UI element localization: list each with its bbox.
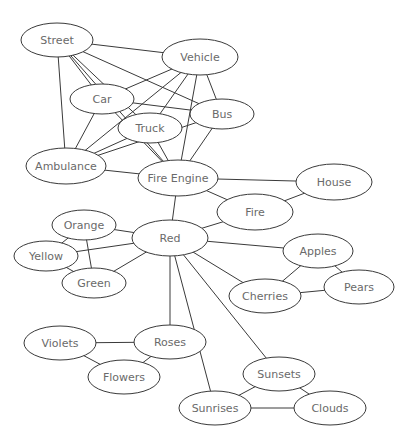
- node-label: Fire: [245, 206, 265, 219]
- node-label: Green: [77, 277, 110, 290]
- node-label: Clouds: [311, 402, 348, 415]
- node-label: Flowers: [103, 371, 145, 384]
- node-bus: Bus: [190, 99, 254, 129]
- node-label: Truck: [134, 122, 165, 135]
- node-label: Fire Engine: [148, 172, 209, 185]
- node-red: Red: [132, 220, 208, 256]
- node-car: Car: [70, 84, 134, 114]
- node-label: Red: [160, 232, 181, 245]
- semantic-network-diagram: StreetVehicleCarBusTruckAmbulanceFire En…: [0, 0, 416, 441]
- node-label: House: [317, 176, 352, 189]
- node-apples: Apples: [283, 234, 353, 268]
- node-house: House: [296, 164, 372, 200]
- node-cherries: Cherries: [229, 279, 301, 313]
- node-label: Pears: [344, 281, 374, 294]
- edge-red-sunrises: [170, 238, 215, 408]
- node-roses: Roses: [134, 325, 206, 359]
- node-pears: Pears: [324, 270, 394, 304]
- node-label: Yellow: [28, 250, 63, 263]
- node-street: Street: [21, 23, 93, 57]
- node-label: Orange: [64, 219, 105, 232]
- node-green: Green: [62, 268, 126, 298]
- node-sunrises: Sunrises: [179, 391, 251, 425]
- node-flowers: Flowers: [88, 360, 160, 394]
- node-label: Car: [93, 93, 112, 106]
- node-label: Sunsets: [257, 368, 301, 381]
- node-label: Sunrises: [192, 402, 239, 415]
- node-vehicle: Vehicle: [162, 39, 238, 75]
- edge-street-ambulance: [57, 40, 66, 166]
- node-yellow: Yellow: [14, 241, 78, 271]
- node-label: Vehicle: [180, 51, 220, 64]
- node-fire-engine: Fire Engine: [138, 160, 218, 196]
- node-sunsets: Sunsets: [243, 357, 315, 391]
- node-truck: Truck: [118, 113, 182, 143]
- node-label: Ambulance: [35, 160, 97, 173]
- node-label: Cherries: [242, 290, 288, 303]
- node-violets: Violets: [24, 326, 96, 360]
- node-label: Bus: [212, 108, 233, 121]
- node-clouds: Clouds: [294, 391, 366, 425]
- node-label: Roses: [154, 336, 186, 349]
- node-label: Apples: [299, 245, 336, 258]
- node-fire: Fire: [217, 194, 293, 230]
- node-ambulance: Ambulance: [26, 148, 106, 184]
- node-label: Violets: [42, 337, 79, 350]
- node-label: Street: [40, 34, 74, 47]
- node-orange: Orange: [52, 210, 116, 240]
